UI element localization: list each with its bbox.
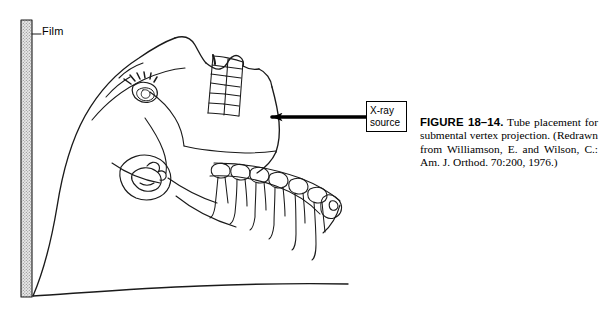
film-cassette	[21, 20, 32, 297]
mandibular-teeth	[210, 163, 342, 260]
film-label: Film	[42, 25, 64, 37]
ear	[120, 155, 171, 200]
patient-outline	[33, 37, 348, 296]
figure-container: Film X-ray source FIGURE 18–14. Tube pla…	[0, 0, 601, 317]
xray-source-callout: X-ray source	[366, 101, 407, 132]
xray-source-label-line2: source	[370, 117, 400, 129]
figure-number: FIGURE 18–14.	[420, 116, 503, 128]
xray-source-label-line1: X-ray	[370, 105, 394, 117]
figure-caption: FIGURE 18–14. Tube placement for subment…	[420, 116, 598, 170]
